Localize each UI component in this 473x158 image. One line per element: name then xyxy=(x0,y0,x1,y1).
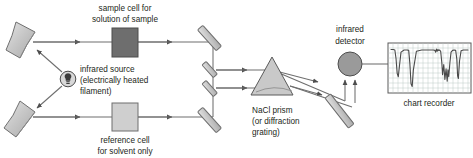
concave-mirror-lower xyxy=(4,101,35,137)
sample-cell xyxy=(112,28,138,57)
prism-label-line1: NaCl prism xyxy=(252,106,293,115)
detector-label-line1: infrared xyxy=(336,25,364,34)
source-to-upper-mirror xyxy=(37,50,62,72)
infrared-source-label-line1: infrared source xyxy=(80,65,135,74)
diagram-canvas: sample cell for solution of sample infra… xyxy=(0,0,473,158)
infrared-source-label-line3: filament) xyxy=(80,87,112,96)
sample-cell-label-line2: solution of sample xyxy=(92,15,158,24)
sample-cell-label-line1: sample cell for xyxy=(99,4,152,13)
prism-label-line3: grating) xyxy=(252,128,280,137)
infrared-detector xyxy=(338,52,362,76)
dispersed-beam-lower-cont xyxy=(290,86,352,107)
reference-cell-label-line2: for solvent only xyxy=(97,147,153,156)
flat-mirror-lower-right xyxy=(198,107,222,132)
chart-recorder-label: chart recorder xyxy=(404,99,455,108)
infrared-source-label-line2: (electrically heated xyxy=(80,76,149,85)
ir-spectrometer-diagram: sample cell for solution of sample infra… xyxy=(0,0,473,158)
reference-cell xyxy=(112,103,138,131)
detector-label-line2: detector xyxy=(335,37,365,46)
flat-mirror-combiner-lower xyxy=(202,80,217,96)
flat-mirror-upper-right xyxy=(198,25,222,50)
chart-recorder xyxy=(388,43,471,93)
prism-label-line2: (or diffraction xyxy=(252,117,300,126)
infrared-source-lamp xyxy=(60,71,76,87)
reference-cell-label-line1: reference cell xyxy=(100,136,149,145)
concave-mirror-upper xyxy=(6,22,35,58)
flat-mirror-combiner-upper xyxy=(202,61,217,77)
source-to-lower-mirror xyxy=(37,86,62,108)
